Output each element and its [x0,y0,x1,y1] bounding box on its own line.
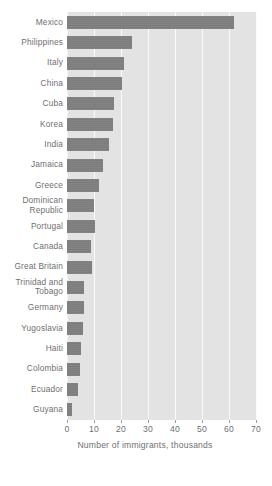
x-tick-mark [67,420,68,423]
category-label: Great Britain [0,262,63,271]
category-label: Korea [0,120,63,129]
bar [67,36,132,49]
bar [67,16,234,29]
x-tick-label: 70 [244,424,268,434]
x-tick-label: 20 [109,424,133,434]
category-label: Greece [0,181,63,190]
bar [67,97,114,110]
category-label: Philippines [0,38,63,47]
x-tick-mark [229,420,230,423]
bar [67,159,103,172]
category-label: Jamaica [0,160,63,169]
bar [67,179,99,192]
bar [67,199,94,212]
bar [67,363,80,376]
immigrants-bar-chart: MexicoPhilippinesItalyChinaCubaKoreaIndi… [0,0,272,486]
x-tick-mark [148,420,149,423]
x-tick-mark [94,420,95,423]
bar [67,383,78,396]
x-tick-mark [175,420,176,423]
bar [67,240,91,253]
bar [67,138,109,151]
bar [67,57,124,70]
bar [67,281,84,294]
x-tick-label: 30 [136,424,160,434]
category-label: India [0,140,63,149]
x-axis: 010203040506070 Number of immigrants, th… [0,420,272,486]
bar [67,322,83,335]
x-tick-label: 40 [163,424,187,434]
x-tick-mark [202,420,203,423]
bar [67,118,113,131]
category-label: Germany [0,303,63,312]
category-label: Yugoslavia [0,324,63,333]
bar [67,301,84,314]
category-label: Italy [0,58,63,67]
x-tick-label: 50 [190,424,214,434]
category-label: Mexico [0,18,63,27]
category-label: Canada [0,242,63,251]
bar [67,403,72,416]
category-label: Guyana [0,405,63,414]
category-label: Colombia [0,364,63,373]
plot-area [67,12,256,420]
bar [67,261,92,274]
x-tick-mark [256,420,257,423]
x-axis-title: Number of immigrants, thousands [0,440,272,450]
category-label: China [0,79,63,88]
x-tick-label: 0 [55,424,79,434]
x-tick-label: 60 [217,424,241,434]
category-label: Cuba [0,99,63,108]
bars [67,12,256,420]
gridline-70 [256,12,257,420]
x-tick-mark [121,420,122,423]
category-label: Portugal [0,222,63,231]
category-label: Ecuador [0,385,63,394]
x-tick-label: 10 [82,424,106,434]
category-labels: MexicoPhilippinesItalyChinaCubaKoreaIndi… [0,12,63,420]
category-label: Trinidad and Tobago [0,278,63,297]
bar [67,220,95,233]
bar [67,77,122,90]
category-label: Dominican Republic [0,196,63,215]
bar [67,342,81,355]
category-label: Haiti [0,344,63,353]
